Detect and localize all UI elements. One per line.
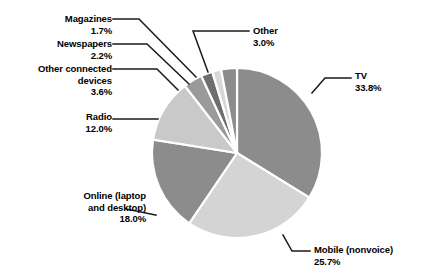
label-radio-value: 12.0% <box>86 123 112 135</box>
label-other-value: 3.0% <box>253 37 278 49</box>
leader-line-other <box>193 31 249 72</box>
label-other-connected-devices-name: Other connected <box>38 63 112 75</box>
label-radio-name: Radio <box>86 111 112 123</box>
leader-line-otherdev <box>113 69 178 90</box>
label-tv-value: 33.8% <box>355 82 381 94</box>
label-tv-name: TV <box>355 70 381 82</box>
label-mobile-value: 25.7% <box>314 256 393 268</box>
label-magazines-value: 1.7% <box>65 25 112 37</box>
leader-line-tv <box>312 78 351 93</box>
label-mobile-name: Mobile (nonvoice) <box>314 244 393 256</box>
label-newspapers-value: 2.2% <box>57 50 112 62</box>
pie-slices <box>152 68 322 238</box>
label-magazines: Magazines 1.7% <box>65 13 112 36</box>
label-other-connected-devices: Other connected devices 3.6% <box>38 63 112 98</box>
label-other-connected-devices-name2: devices <box>38 75 112 87</box>
label-online-name: Online (laptop <box>84 190 146 202</box>
label-other-name: Other <box>253 25 278 37</box>
label-newspapers-name: Newspapers <box>57 38 112 50</box>
label-online: Online (laptop and desktop) 18.0% <box>84 190 146 225</box>
pie-chart-figure: Magazines 1.7% Newspapers 2.2% Other con… <box>0 0 422 275</box>
label-online-value: 18.0% <box>84 213 146 225</box>
label-mobile: Mobile (nonvoice) 25.7% <box>314 244 393 267</box>
label-online-name2: and desktop) <box>84 202 146 214</box>
label-magazines-name: Magazines <box>65 13 112 25</box>
label-newspapers: Newspapers 2.2% <box>57 38 112 61</box>
label-radio: Radio 12.0% <box>86 111 112 134</box>
leader-line-mobile <box>283 235 310 251</box>
label-tv: TV 33.8% <box>355 70 381 93</box>
label-other: Other 3.0% <box>253 25 278 48</box>
leader-line-newspapers <box>113 44 189 84</box>
label-other-connected-devices-value: 3.6% <box>38 86 112 98</box>
